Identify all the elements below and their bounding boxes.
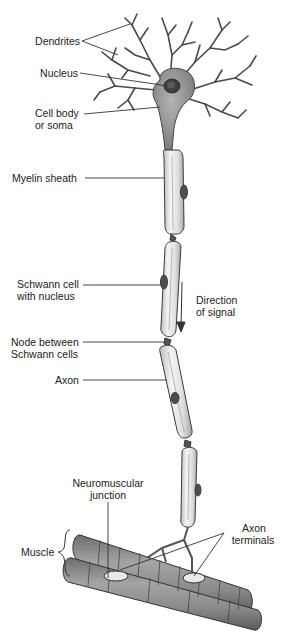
label-nucleus: Nucleus [2,67,78,79]
schwann-nucleus [195,484,201,496]
label-cell-body-line2: or soma [35,119,73,131]
label-direction-line1: Direction [196,294,237,306]
label-node-line1: Node between [11,336,79,348]
cell-body [153,68,195,150]
neuromuscular-junction-plate [183,573,205,583]
schwann-nucleus [161,275,168,289]
label-cell-body-line1: Cell body [35,107,79,119]
axon [160,150,201,527]
label-nmj-line1: Neuromuscular [60,477,156,489]
label-schwann-cell-line1: Schwann cell [17,278,79,290]
label-dendrites: Dendrites [2,35,80,47]
schwann-nucleus [171,393,179,404]
label-nmj-line2: junction [60,489,156,501]
label-axon-terminals-line1: Axon [226,522,282,534]
label-node-line2: Schwann cells [11,348,78,360]
label-myelin-sheath: Myelin sheath [12,172,77,184]
schwann-nucleus [181,185,188,199]
label-muscle: Muscle [21,546,54,558]
label-schwann-cell-line2: with nucleus [17,290,75,302]
label-axon-terminals-line2: terminals [224,534,282,546]
label-direction-line2: of signal [196,306,235,318]
label-axon: Axon [55,374,79,386]
